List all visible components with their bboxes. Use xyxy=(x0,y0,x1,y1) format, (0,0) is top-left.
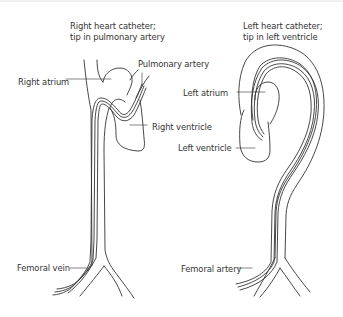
label-femoral-artery: Femoral artery xyxy=(181,264,241,275)
catheter-diagram: Right heart catheter; tip in pulmonary a… xyxy=(0,0,343,317)
label-right-ventricle: Right ventricle xyxy=(152,122,212,133)
right-panel-title-line2: tip in left ventricle xyxy=(243,32,318,44)
right-panel-title-line1: Left heart catheter; xyxy=(243,21,323,33)
left-panel-title-line2: tip in pulmonary artery xyxy=(70,32,165,44)
label-left-atrium: Left atrium xyxy=(183,88,228,99)
left-heart-illustration xyxy=(236,45,324,297)
label-femoral-vein: Femoral vein xyxy=(17,263,70,274)
label-pulmonary-artery: Pulmonary artery xyxy=(138,59,209,70)
left-panel-title-line1: Right heart catheter; xyxy=(70,21,156,33)
label-right-atrium: Right atrium xyxy=(18,77,69,88)
label-left-ventricle: Left ventricle xyxy=(178,143,232,154)
